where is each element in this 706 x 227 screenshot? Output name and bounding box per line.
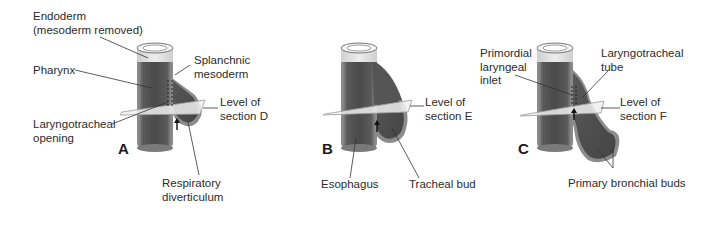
- label-level-section-d: Level of section D: [220, 96, 268, 123]
- label-laryngotracheal-tube: Laryngotracheal tube: [601, 47, 683, 74]
- label-respiratory-diverticulum: Respiratory diverticulum: [162, 177, 223, 204]
- panel-letter-c: C: [518, 140, 529, 157]
- label-endoderm: Endoderm (mesoderm removed): [33, 10, 143, 37]
- label-level-section-e: Level of section E: [425, 96, 472, 123]
- label-pharynx: Pharynx: [33, 64, 75, 78]
- label-tracheal-bud: Tracheal bud: [409, 178, 476, 192]
- panel-b-drawing: [323, 43, 412, 152]
- label-laryngotracheal-opening: Laryngotracheal opening: [33, 118, 115, 145]
- label-esophagus: Esophagus: [321, 178, 379, 192]
- label-primordial-laryngeal-inlet: Primordial laryngeal inlet: [480, 47, 532, 88]
- label-level-section-f: Level of section F: [620, 96, 667, 123]
- label-primary-bronchial-buds: Primary bronchial buds: [568, 177, 686, 191]
- panel-a-drawing: [120, 43, 205, 152]
- label-splanchnic-mesoderm: Splanchnic mesoderm: [194, 54, 250, 81]
- panel-letter-b: B: [322, 140, 333, 157]
- panel-letter-a: A: [118, 140, 129, 157]
